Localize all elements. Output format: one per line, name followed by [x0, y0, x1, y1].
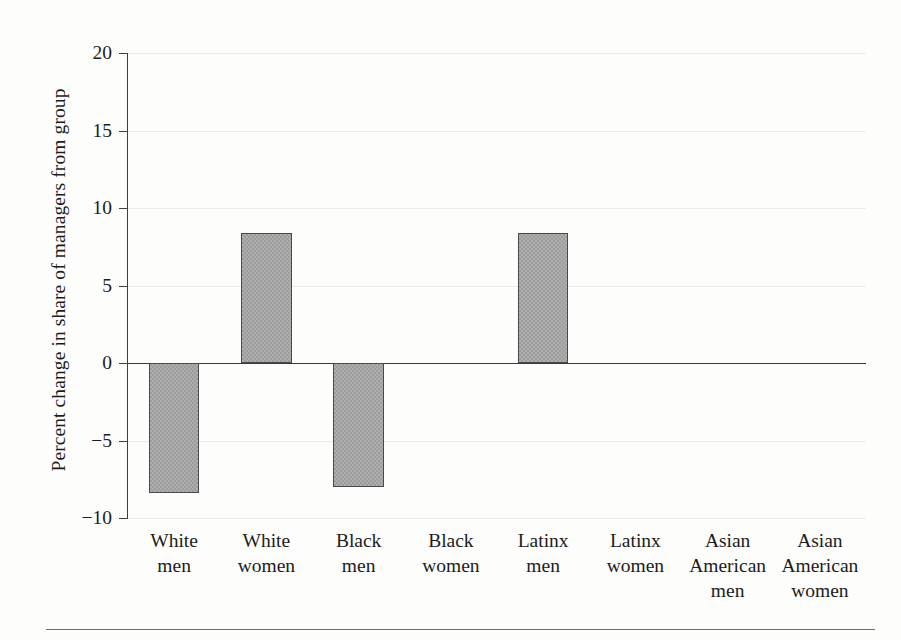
bottom-rule: [46, 629, 875, 630]
plot-area: [128, 53, 866, 518]
gridline: [128, 208, 866, 209]
y-tick-label: −10: [66, 508, 112, 528]
y-tick-mark: [119, 441, 127, 442]
x-axis-label-line: American: [761, 553, 879, 578]
y-tick-label: −5: [66, 431, 112, 451]
y-tick-mark: [119, 518, 127, 519]
y-tick-mark: [119, 208, 127, 209]
y-tick-mark: [119, 286, 127, 287]
gridline: [128, 441, 866, 442]
y-tick-label: 0: [66, 353, 112, 373]
y-tick-mark: [119, 131, 127, 132]
y-tick-label: 20: [66, 43, 112, 63]
y-tick-label: 5: [66, 276, 112, 296]
y-tick-label: 15: [66, 121, 112, 141]
gridline: [128, 518, 866, 519]
x-axis-label-line: women: [761, 578, 879, 603]
y-tick-label: 10: [66, 198, 112, 218]
y-tick-mark: [119, 53, 127, 54]
gridline: [128, 286, 866, 287]
bar: [518, 233, 568, 363]
x-axis-label-line: Asian: [761, 528, 879, 553]
y-tick-mark: [119, 363, 127, 364]
figure: Percent change in share of managers from…: [0, 0, 901, 640]
gridline: [128, 53, 866, 54]
x-axis-label: AsianAmericanwomen: [761, 528, 879, 603]
gridline: [128, 131, 866, 132]
bar: [149, 363, 199, 493]
bar: [333, 363, 383, 487]
bar: [241, 233, 291, 363]
x-axis-labels: WhitemenWhitewomenBlackmenBlackwomenLati…: [128, 528, 866, 618]
zero-line: [128, 363, 866, 364]
